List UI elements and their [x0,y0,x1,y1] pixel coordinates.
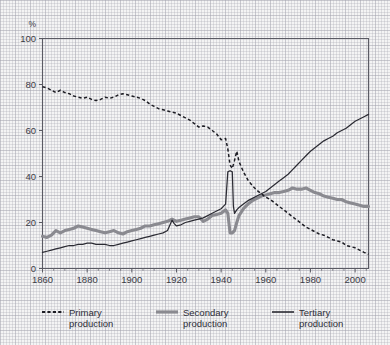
legend-entry-secondary: Secondary production [156,307,229,329]
legend-label-tertiary-line2: production [299,318,343,329]
x-tick-label: 2000 [345,274,366,285]
chart-legend: Primary production Secondary production … [42,307,343,329]
data-series [43,87,369,254]
legend-label-primary-line1: Primary [69,307,102,318]
y-tick-label: 20 [25,217,36,228]
x-tick-label: 1940 [211,274,232,285]
line-chart: 020406080100 186018801900192019401960198… [0,0,390,345]
legend-label-tertiary-line1: Tertiary [299,307,330,318]
y-tick-label: 40 [25,171,36,182]
series-line-tertiary-production [43,114,369,252]
plot-frame [43,39,369,269]
y-axis-tick-labels: 020406080100 [20,33,36,274]
y-tick-label: 60 [25,125,36,136]
y-tick-label: 0 [31,263,36,274]
legend-label-secondary-line1: Secondary [183,307,229,318]
x-tick-label: 1960 [255,274,276,285]
legend-entry-primary: Primary production [42,307,113,329]
x-tick-label: 1980 [300,274,321,285]
x-tick-label: 1880 [77,274,98,285]
x-tick-label: 1860 [32,274,53,285]
x-axis-tick-labels: 18601880190019201940196019802000 [32,274,366,285]
legend-label-primary-line2: production [69,318,113,329]
y-tick-label: 80 [25,79,36,90]
legend-label-secondary-line2: production [183,318,227,329]
y-tick-label: 100 [20,33,36,44]
legend-entry-tertiary: Tertiary production [272,307,343,329]
x-tick-label: 1900 [121,274,142,285]
series-line-secondary-production [43,188,369,237]
x-tick-label: 1920 [166,274,187,285]
y-axis-unit-label: % [28,19,36,29]
